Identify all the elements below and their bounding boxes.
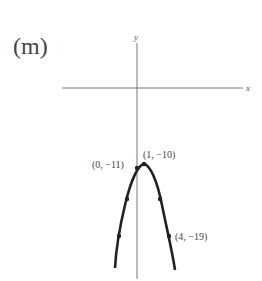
data-point [167,234,171,238]
data-point [117,234,121,238]
data-point [142,162,146,166]
x-axis-label: x [245,83,250,93]
label-point-4: (4, −19) [175,231,207,243]
chart-canvas: x y (0, −11) (1, −10) (4, −19) [0,0,262,281]
label-point-0: (0, −11) [92,159,124,171]
y-axis-label: y [133,32,138,42]
parabola-curve [115,164,175,270]
data-point [158,197,162,201]
data-point [125,197,129,201]
data-point [135,166,139,170]
label-point-1: (1, −10) [143,149,175,161]
